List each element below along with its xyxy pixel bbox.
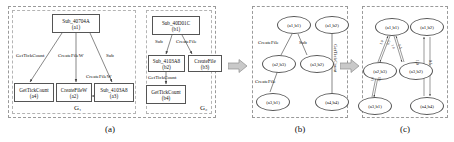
node-b3[interactable]: CreateFile (b3) bbox=[188, 55, 222, 72]
node-a3[interactable]: Sub_4103A8 (a3) bbox=[94, 83, 134, 102]
node-b-a4b4[interactable]: (a4,b4) bbox=[315, 93, 349, 111]
group-g2-label: G₂ bbox=[200, 104, 208, 112]
edge-label-g1-createfilew-2: CreateFileW bbox=[86, 74, 112, 80]
edge-label-b-sub: Sub bbox=[299, 40, 307, 46]
edge-weight-c-8: 0.5 bbox=[428, 60, 432, 65]
figure-container: Sub_40704A (a1) GetTickCount (a4) Create… bbox=[0, 0, 454, 142]
edge-label-b-createfile: CreateFile bbox=[258, 40, 279, 46]
node-a1-id: (a1) bbox=[72, 24, 80, 30]
node-b-a3b1[interactable]: (a3,b1) bbox=[256, 93, 290, 111]
node-b1-id: (b1) bbox=[172, 26, 181, 32]
node-a2[interactable]: CreateFileW (a2) bbox=[56, 83, 92, 102]
node-b-a3b2[interactable]: (a3,b2) bbox=[300, 55, 334, 73]
node-b3-id: (b3) bbox=[201, 64, 210, 70]
node-b2-id: (b2) bbox=[162, 64, 171, 70]
edge-label-g2-gettickcount: GetTickCount bbox=[148, 75, 176, 81]
edge-label-g1-createfilew: CreateFileW bbox=[58, 53, 84, 59]
edge-label-g2-createfile: CreateFile bbox=[176, 39, 197, 45]
node-b1[interactable]: Sub_40D01C (b1) bbox=[152, 16, 200, 35]
node-a1[interactable]: Sub_40704A (a1) bbox=[52, 14, 100, 33]
edge-label-b-createfile-2: CreateFile bbox=[255, 79, 276, 85]
node-c-a1b1[interactable]: (a1,b1) bbox=[375, 18, 409, 36]
caption-b: (b) bbox=[250, 124, 350, 134]
caption-a: (a) bbox=[60, 124, 160, 134]
node-b-a1b1[interactable]: (a1,b1) bbox=[277, 16, 311, 34]
node-a4-id: (a4) bbox=[30, 93, 38, 99]
node-c-a3b1[interactable]: (a3,b1) bbox=[358, 97, 392, 115]
node-c-a1b2[interactable]: (a1,b2) bbox=[410, 18, 444, 36]
group-g1-label: G₁ bbox=[74, 104, 82, 112]
flow-arrow-a-to-b bbox=[228, 59, 248, 73]
edge-weight-c-7: 1.0 bbox=[415, 60, 419, 65]
caption-c: (c) bbox=[355, 124, 454, 134]
node-b4-id: (b4) bbox=[162, 95, 171, 101]
node-b-a1b2[interactable]: (a1,b2) bbox=[315, 16, 349, 34]
edge-label-g2-sub: Sub bbox=[155, 39, 163, 45]
node-b4[interactable]: GetTickCount (b4) bbox=[146, 85, 186, 104]
node-c-a4b4[interactable]: (a4,b4) bbox=[410, 97, 444, 115]
node-a3-id: (a3) bbox=[110, 93, 118, 99]
node-a2-id: (a2) bbox=[70, 93, 78, 99]
node-a4[interactable]: GetTickCount (a4) bbox=[14, 83, 54, 102]
edge-label-b-gettickcount: GetTickCount bbox=[332, 44, 338, 72]
node-b2[interactable]: Sub_4103A8 (b2) bbox=[148, 55, 185, 72]
edge-label-g1-gettickcount: GetTickCount bbox=[16, 53, 44, 59]
flow-arrow-b-to-c bbox=[340, 59, 360, 73]
node-b-a2b3[interactable]: (a2,b3) bbox=[262, 55, 296, 73]
edge-label-g1-sub: Sub bbox=[106, 53, 114, 59]
